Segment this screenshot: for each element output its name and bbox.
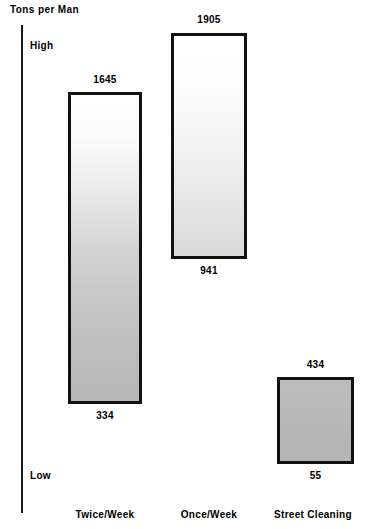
y-axis-low-label: Low: [30, 470, 51, 481]
bar-low-value-twice-week: 334: [68, 410, 142, 421]
bar-once-week: [171, 33, 247, 259]
bar-street-cleaning: [277, 377, 354, 464]
bar-low-value-once-week: 941: [171, 265, 247, 276]
bar-twice-week: [68, 92, 142, 404]
category-label-twice-week: Twice/Week: [53, 509, 157, 520]
y-axis-high-label: High: [30, 40, 53, 51]
y-axis-line: [21, 25, 23, 513]
bar-high-value-twice-week: 1645: [68, 74, 142, 85]
bar-high-value-once-week: 1905: [171, 14, 247, 25]
bar-low-value-street-cleaning: 55: [277, 470, 354, 481]
category-label-street-cleaning: Street Cleaning: [261, 509, 365, 520]
chart-container: Tons per Man High Low 1645 334 1905 941 …: [0, 0, 366, 529]
bar-high-value-street-cleaning: 434: [277, 359, 354, 370]
y-axis-title: Tons per Man: [10, 4, 79, 15]
category-label-once-week: Once/Week: [157, 509, 261, 520]
